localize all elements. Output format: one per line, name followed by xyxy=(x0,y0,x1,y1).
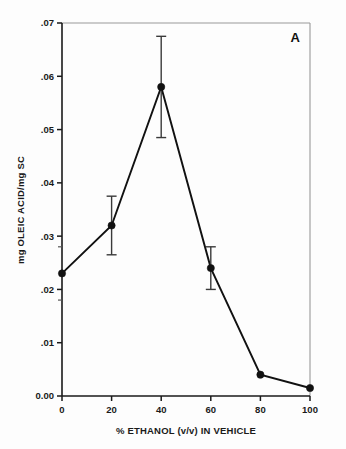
y-tick-label: .03 xyxy=(41,231,54,242)
data-point-marker xyxy=(257,371,264,378)
x-tick-label: 20 xyxy=(106,404,117,415)
data-point-marker xyxy=(58,270,65,277)
panel-label: A xyxy=(291,30,301,45)
data-point-marker xyxy=(108,222,115,229)
figure-background xyxy=(0,0,346,449)
figure-panel-a: 0.00.01.02.03.04.05.06.07 020406080100 %… xyxy=(0,0,346,449)
x-tick-label: 100 xyxy=(302,404,318,415)
y-tick-label: .05 xyxy=(41,124,55,135)
y-tick-label: .06 xyxy=(41,71,54,82)
line-chart: 0.00.01.02.03.04.05.06.07 020406080100 %… xyxy=(0,0,346,449)
data-point-marker xyxy=(306,384,313,391)
y-tick-label: .04 xyxy=(41,177,55,188)
x-tick-label: 80 xyxy=(255,404,266,415)
x-tick-label: 40 xyxy=(156,404,167,415)
data-point-marker xyxy=(207,265,214,272)
y-tick-label: 0.00 xyxy=(36,390,55,401)
y-tick-label: .01 xyxy=(41,337,55,348)
x-axis-title: % ETHANOL (v/v) IN VEHICLE xyxy=(116,425,256,436)
x-tick-label: 0 xyxy=(59,404,64,415)
y-tick-label: .02 xyxy=(41,284,54,295)
y-tick-label: .07 xyxy=(41,17,54,28)
data-point-marker xyxy=(158,83,165,90)
x-tick-label: 60 xyxy=(206,404,217,415)
y-axis-title: mg OLEIC ACID/mg SC xyxy=(15,156,26,264)
